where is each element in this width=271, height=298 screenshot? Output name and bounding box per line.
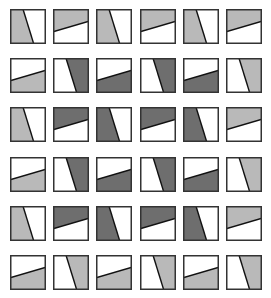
tile	[53, 255, 89, 290]
tile	[183, 107, 219, 142]
tile	[53, 157, 89, 192]
tile	[183, 9, 219, 44]
tile	[96, 206, 132, 241]
tile	[53, 206, 89, 241]
tile	[183, 157, 219, 192]
tile	[140, 58, 176, 93]
tile	[96, 107, 132, 142]
tile	[96, 58, 132, 93]
tile	[53, 9, 89, 44]
tile	[226, 58, 262, 93]
tile	[226, 107, 262, 142]
tile	[140, 206, 176, 241]
tile	[96, 9, 132, 44]
tile	[10, 255, 46, 290]
tile	[96, 255, 132, 290]
tile	[53, 107, 89, 142]
tile	[140, 157, 176, 192]
tile	[226, 206, 262, 241]
tile	[10, 9, 46, 44]
tile	[53, 58, 89, 93]
tile	[140, 107, 176, 142]
tile	[226, 9, 262, 44]
tile	[10, 107, 46, 142]
tile	[10, 157, 46, 192]
tile	[140, 9, 176, 44]
tile	[183, 58, 219, 93]
tile	[183, 255, 219, 290]
tile	[96, 157, 132, 192]
tile	[140, 255, 176, 290]
tile	[226, 255, 262, 290]
tile	[226, 157, 262, 192]
tile	[10, 58, 46, 93]
tile	[10, 206, 46, 241]
tile	[183, 206, 219, 241]
